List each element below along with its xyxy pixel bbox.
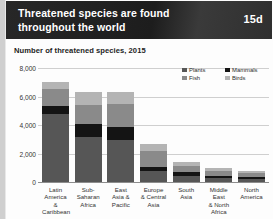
bar-segment-plants[interactable] <box>205 178 232 182</box>
bar-east-asia-pacific[interactable] <box>107 68 134 182</box>
y-tick-label: 4,000 <box>10 122 36 129</box>
bar-segment-mammals[interactable] <box>75 124 102 137</box>
square-swatch-icon <box>225 68 230 73</box>
bar-south-asia[interactable] <box>173 68 200 182</box>
legend-label: Plants <box>189 67 205 73</box>
bar-segment-birds[interactable] <box>75 92 102 106</box>
y-axis: 8,000 6,000 4,000 2,000 0 <box>8 68 36 182</box>
x-tick-label: Sub-SaharanAfrica <box>75 186 102 216</box>
square-swatch-icon <box>182 68 187 73</box>
legend-label: Mammals <box>232 67 258 73</box>
x-tick-label: SouthAsia <box>173 186 200 216</box>
chart-legend: Plants Mammals Fish Birds <box>182 67 268 83</box>
legend-item-birds[interactable]: Birds <box>225 75 268 81</box>
figure-number-badge: 15d <box>243 13 263 25</box>
x-tick-label: Middle East& NorthAfrica <box>205 186 232 216</box>
x-axis: LatinAmerica &Caribbean Sub-SaharanAfric… <box>38 186 269 216</box>
square-swatch-icon <box>182 76 187 81</box>
bar-segment-plants[interactable] <box>107 140 134 182</box>
x-tick-label: Europe& CentralAsia <box>140 186 167 216</box>
bar-segment-birds[interactable] <box>42 82 69 89</box>
x-tick-label: EastAsia &Pacific <box>107 186 134 216</box>
bar-segment-mammals[interactable] <box>107 127 134 140</box>
legend-label: Fish <box>189 75 200 81</box>
gridline-0-baseline <box>38 182 269 183</box>
bar-segment-plants[interactable] <box>42 114 69 182</box>
bar-segment-plants[interactable] <box>75 137 102 182</box>
bar-segment-fish[interactable] <box>107 104 134 128</box>
infographic-panel: Threatened species are found throughout … <box>0 0 273 219</box>
legend-label: Birds <box>232 75 245 81</box>
bar-segment-birds[interactable] <box>140 144 167 152</box>
plot-area <box>38 68 269 182</box>
chart-container: 8,000 6,000 4,000 2,000 0 <box>8 64 271 216</box>
bar-segment-plants[interactable] <box>140 171 167 182</box>
bar-europe-central-asia[interactable] <box>140 68 167 182</box>
bar-segment-mammals[interactable] <box>42 106 69 115</box>
bar-segment-plants[interactable] <box>173 176 200 182</box>
header-bar: Threatened species are found throughout … <box>6 1 272 39</box>
legend-item-plants[interactable]: Plants <box>182 67 225 73</box>
bar-latin-america-caribbean[interactable] <box>42 68 69 182</box>
page-title: Threatened species are found throughout … <box>18 6 203 34</box>
bar-segment-fish[interactable] <box>140 151 167 167</box>
bar-group <box>38 68 269 182</box>
legend-item-mammals[interactable]: Mammals <box>225 67 268 73</box>
square-swatch-icon <box>225 76 230 81</box>
bar-sub-saharan-africa[interactable] <box>75 68 102 182</box>
y-tick-label: 6,000 <box>10 93 36 100</box>
bar-middle-east-north-africa[interactable] <box>205 68 232 182</box>
bar-segment-plants[interactable] <box>238 179 265 182</box>
bar-segment-fish[interactable] <box>42 89 69 105</box>
bar-segment-birds[interactable] <box>107 92 134 104</box>
bar-north-america[interactable] <box>238 68 265 182</box>
x-tick-label: LatinAmerica &Caribbean <box>42 186 69 216</box>
legend-item-fish[interactable]: Fish <box>182 75 225 81</box>
y-tick-label: 0 <box>10 179 36 186</box>
y-tick-label: 2,000 <box>10 150 36 157</box>
chart-subtitle: Number of threatened species, 2015 <box>14 46 146 55</box>
y-tick-label: 8,000 <box>10 65 36 72</box>
x-tick-label: NorthAmerica <box>238 186 265 216</box>
bar-segment-fish[interactable] <box>75 105 102 124</box>
